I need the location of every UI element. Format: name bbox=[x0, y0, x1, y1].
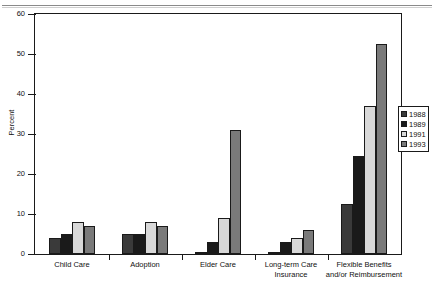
legend-item-1991: 1991 bbox=[401, 129, 426, 139]
bar-1993-4 bbox=[303, 230, 315, 254]
y-axis-tick-label: 50 bbox=[0, 50, 25, 58]
y-axis-tick bbox=[28, 254, 36, 255]
bar-1991-4 bbox=[291, 238, 303, 254]
legend-item-label: 1993 bbox=[409, 140, 426, 149]
legend-swatch-icon bbox=[401, 131, 407, 137]
legend-swatch-icon bbox=[401, 121, 407, 127]
y-axis-tick-label: 10 bbox=[0, 210, 25, 218]
legend-item-1993: 1993 bbox=[401, 139, 426, 149]
legend-item-label: 1991 bbox=[409, 130, 426, 139]
legend-item-label: 1988 bbox=[409, 110, 426, 119]
bar-1989-2 bbox=[134, 234, 146, 254]
bar-1993-2 bbox=[157, 226, 169, 254]
legend-swatch-icon bbox=[401, 141, 407, 147]
bars-layer bbox=[36, 14, 401, 254]
bar-group bbox=[122, 14, 168, 254]
scan-artifact-line bbox=[2, 5, 432, 6]
bar-1989-1 bbox=[61, 234, 73, 254]
y-axis-tick-label: 0 bbox=[0, 250, 25, 258]
bar-1991-1 bbox=[72, 222, 84, 254]
legend-item-label: 1989 bbox=[409, 120, 426, 129]
bar-group bbox=[195, 14, 241, 254]
bar-1989-4 bbox=[280, 242, 292, 254]
bar-chart: 0102030405060 Percent Child CareAdoption… bbox=[0, 0, 438, 288]
bar-1993-1 bbox=[84, 226, 96, 254]
bar-group bbox=[341, 14, 387, 254]
bar-1993-3 bbox=[230, 130, 242, 254]
bar-1989-5 bbox=[353, 156, 365, 254]
bar-1988-3 bbox=[195, 252, 207, 254]
bar-1988-1 bbox=[49, 238, 61, 254]
bar-group bbox=[268, 14, 314, 254]
bar-1988-2 bbox=[122, 234, 134, 254]
bar-1988-4 bbox=[268, 252, 280, 254]
bar-1991-5 bbox=[364, 106, 376, 254]
legend: 1988198919911993 bbox=[398, 106, 429, 152]
bar-group bbox=[49, 14, 95, 254]
legend-item-1989: 1989 bbox=[401, 119, 426, 129]
y-axis-tick-label: 60 bbox=[0, 10, 25, 18]
y-axis-tick-label: 20 bbox=[0, 170, 25, 178]
bar-1993-5 bbox=[376, 44, 388, 254]
legend-item-1988: 1988 bbox=[401, 109, 426, 119]
y-axis-title: Percent bbox=[7, 93, 16, 153]
bar-1991-2 bbox=[145, 222, 157, 254]
bar-1988-5 bbox=[341, 204, 353, 254]
scan-artifact-line-secondary bbox=[2, 7, 432, 8]
x-axis-category-label: Flexible Benefitsand/or Reimbursement bbox=[322, 260, 407, 280]
bar-1989-3 bbox=[207, 242, 219, 254]
legend-swatch-icon bbox=[401, 111, 407, 117]
bar-1991-3 bbox=[218, 218, 230, 254]
